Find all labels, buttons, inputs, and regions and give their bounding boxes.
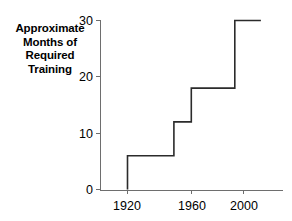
x-tick-label-1960: 1960 bbox=[178, 199, 206, 213]
y-tick-label-0: 0 bbox=[86, 183, 93, 197]
y-tick-label-20: 20 bbox=[79, 70, 93, 84]
step-series-line bbox=[128, 21, 261, 190]
x-tick-label-1920: 1920 bbox=[113, 199, 141, 213]
chart-figure: Approximate Months of Required Training … bbox=[0, 0, 292, 221]
y-tick-marks bbox=[96, 21, 100, 190]
x-tick-label-2000: 2000 bbox=[230, 199, 258, 213]
step-chart-plot: 30 20 10 0 1920 1960 2000 bbox=[0, 0, 292, 221]
y-tick-label-30: 30 bbox=[79, 14, 93, 28]
y-tick-label-10: 10 bbox=[79, 127, 93, 141]
